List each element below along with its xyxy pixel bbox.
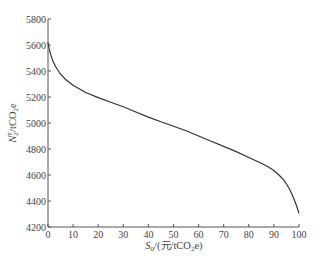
- axes: [48, 19, 299, 227]
- y-tick-label: 4200: [26, 222, 46, 233]
- x-tick-label: 20: [93, 229, 103, 240]
- x-tick-label: 80: [244, 229, 254, 240]
- x-tick-label: 0: [46, 229, 51, 240]
- y-tick-label: 5400: [26, 66, 46, 77]
- x-tick-label: 60: [194, 229, 204, 240]
- x-tick-label: 50: [169, 229, 179, 240]
- y-tick-label: 4800: [26, 144, 46, 155]
- y-axis-label: N2T/tCO2e: [6, 103, 20, 144]
- x-tick-label: 70: [219, 229, 229, 240]
- y-axis-ticks: 420044004600480050005200540056005800: [26, 14, 51, 233]
- x-tick-label: 30: [118, 229, 128, 240]
- x-tick-label: 10: [68, 229, 78, 240]
- y-tick-label: 4600: [26, 170, 46, 181]
- y-tick-label: 4400: [26, 196, 46, 207]
- data-series-line: [48, 42, 299, 213]
- x-axis-label: S0/(元/tCO2e): [145, 240, 203, 253]
- x-tick-label: 90: [269, 229, 279, 240]
- y-tick-label: 5600: [26, 40, 46, 51]
- x-tick-label: 100: [292, 229, 307, 240]
- x-tick-label: 40: [143, 229, 153, 240]
- y-tick-label: 5800: [26, 14, 46, 25]
- y-tick-label: 5000: [26, 118, 46, 129]
- x-axis-ticks: 0102030405060708090100: [46, 224, 307, 240]
- y-tick-label: 5200: [26, 92, 46, 103]
- line-chart: 420044004600480050005200540056005800 010…: [0, 0, 320, 264]
